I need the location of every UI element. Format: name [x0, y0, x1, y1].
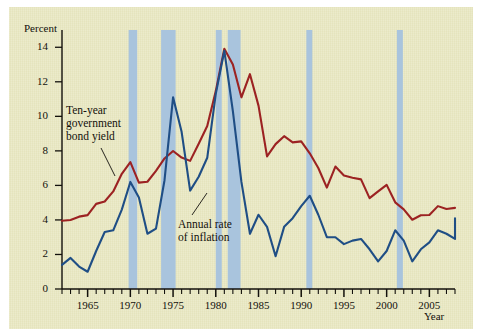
y-tick-label: 14	[24, 40, 48, 52]
y-tick-label: 8	[24, 144, 48, 156]
x-axis-ticks	[62, 289, 455, 297]
x-tick-label: 1985	[239, 299, 279, 311]
x-tick-label: 1980	[196, 299, 236, 311]
x-tick-label: 1965	[68, 299, 108, 311]
chart-plot-svg	[0, 0, 482, 336]
recession-band	[306, 30, 312, 289]
chart-figure: Percent Year Ten-year government bond yi…	[0, 0, 482, 336]
y-tick-label: 4	[24, 213, 48, 225]
leader-line-bond	[101, 148, 115, 176]
x-tick-label: 2005	[409, 299, 449, 311]
y-tick-label: 10	[24, 109, 48, 121]
y-tick-label: 12	[24, 75, 48, 87]
recession-bands	[129, 30, 403, 289]
leader-line-inflation	[192, 193, 207, 215]
recession-band	[397, 30, 403, 289]
x-tick-label: 2000	[367, 299, 407, 311]
y-axis-ticks	[55, 47, 62, 289]
series-line	[62, 51, 455, 272]
x-axis-title: Year	[424, 310, 444, 322]
x-tick-label: 1975	[153, 299, 193, 311]
annotation-inflation: Annual rate of inflation	[178, 218, 232, 244]
x-tick-label: 1970	[110, 299, 150, 311]
recession-band	[129, 30, 138, 289]
x-tick-label: 1990	[281, 299, 321, 311]
y-tick-label: 2	[24, 247, 48, 259]
x-tick-label: 1995	[324, 299, 364, 311]
chart-axes	[62, 30, 455, 289]
y-axis-title: Percent	[24, 22, 57, 34]
chart-series-lines	[62, 49, 455, 272]
y-tick-label: 6	[24, 178, 48, 190]
annotation-bond-yield: Ten-year government bond yield	[66, 104, 121, 143]
series-line	[62, 49, 455, 221]
y-tick-label: 0	[24, 282, 48, 294]
